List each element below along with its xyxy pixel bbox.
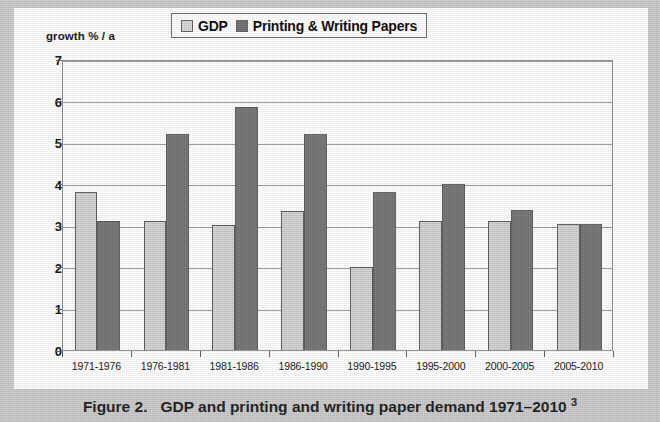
caption-footnote-marker: 3 [571,396,577,408]
legend-swatch-gdp [181,20,193,32]
bar-group [281,61,326,350]
bar-group [350,61,395,350]
x-tick-mark [200,351,201,357]
caption-text: GDP and printing and writing paper deman… [160,398,566,415]
bar-printing-writing[interactable] [304,134,327,350]
x-tick-mark [269,351,270,357]
figure-caption: Figure 2. GDP and printing and writing p… [0,396,660,422]
x-tick-mark [475,351,476,357]
x-tick-mark [131,351,132,357]
x-tick-label: 1986-1990 [278,360,327,372]
bar-gdp[interactable] [281,211,304,350]
bar-printing-writing[interactable] [442,184,465,350]
bar-gdp[interactable] [350,267,373,350]
bar-printing-writing[interactable] [373,192,396,350]
bar-group [144,61,189,350]
chart-legend: GDP Printing & Writing Papers [171,13,427,38]
bar-gdp[interactable] [419,221,442,350]
legend-label-gdp: GDP [198,18,228,34]
x-tick-mark [544,351,545,357]
x-tick-label: 2000-2005 [485,360,534,372]
bar-group [212,61,257,350]
x-tick-label: 1971-1976 [72,360,121,372]
legend-item-gdp: GDP [181,18,228,34]
bar-printing-writing[interactable] [580,224,603,350]
bar-printing-writing[interactable] [97,221,120,350]
bar-printing-writing[interactable] [511,210,534,350]
legend-item-printing-writing: Printing & Writing Papers [236,18,417,34]
bar-gdp[interactable] [212,225,235,350]
bar-gdp[interactable] [488,221,511,350]
bar-printing-writing[interactable] [166,134,189,350]
bar-group [75,61,120,350]
x-tick-label: 1995-2000 [416,360,465,372]
bar-gdp[interactable] [144,221,167,350]
legend-swatch-printing-writing [236,20,248,32]
x-tick-label: 1990-1995 [347,360,396,372]
scanned-page: growth % / a 01234567 1971-19761976-1981… [0,0,660,422]
bar-gdp[interactable] [557,224,580,350]
bar-group [488,61,533,350]
bar-gdp[interactable] [75,192,98,350]
caption-label: Figure 2. [83,398,148,415]
plot-area [62,60,613,351]
bar-group [419,61,464,350]
legend-label-printing-writing: Printing & Writing Papers [253,18,417,34]
x-tick-mark [406,351,407,357]
x-tick-mark [62,351,63,357]
bar-printing-writing[interactable] [235,107,258,350]
x-tick-label: 1981-1986 [210,360,259,372]
x-tick-label: 1976-1981 [141,360,190,372]
bars-layer [63,61,612,350]
x-tick-label: 2005-2010 [554,360,603,372]
y-axis-title: growth % / a [46,30,115,42]
x-tick-mark [338,351,339,357]
bar-group [557,61,602,350]
x-axis-ticks [62,351,613,359]
y-axis: 01234567 [24,60,62,351]
figure-card: growth % / a 01234567 1971-19761976-1981… [14,8,648,389]
x-axis-labels: 1971-19761976-19811981-19861986-19901990… [62,360,613,378]
x-tick-mark [613,351,614,357]
